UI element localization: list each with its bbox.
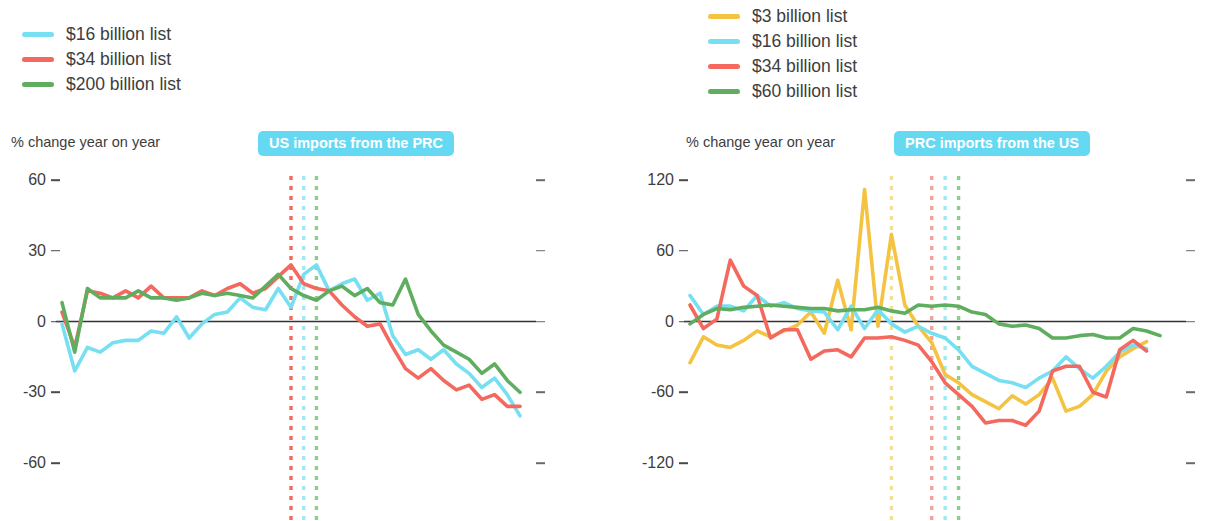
y-axis-tick-label: 60 (0, 171, 46, 189)
chart-board: $16 billion list $34 billion list $200 b… (0, 0, 1223, 521)
y-axis-tick-mark-right (1186, 250, 1195, 252)
y-axis-tick-label: 120 (524, 171, 674, 189)
y-axis-tick-label: 60 (524, 242, 674, 260)
y-axis-tick-label: 0 (524, 313, 674, 331)
y-axis-tick-label: 0 (0, 313, 46, 331)
y-axis-tick-mark (679, 462, 688, 464)
chart-svg (600, 0, 1223, 521)
y-axis-tick-mark (679, 391, 688, 393)
y-axis-tick-mark-right (1186, 462, 1195, 464)
y-axis-tick-mark-right (1186, 179, 1195, 181)
panel-us-imports: $16 billion list $34 billion list $200 b… (0, 0, 600, 521)
y-axis-tick-mark-right (1186, 321, 1195, 323)
chart-svg (0, 0, 600, 521)
y-axis-tick-label: 30 (0, 242, 46, 260)
y-axis-tick-mark (51, 462, 60, 464)
y-axis-tick-mark (679, 321, 688, 323)
y-axis-tick-mark (679, 179, 688, 181)
y-axis-tick-label: -60 (0, 454, 46, 472)
y-axis-tick-label: -120 (524, 454, 674, 472)
series-line (690, 260, 1147, 425)
y-axis-tick-mark-right (1186, 391, 1195, 393)
plot-area-us-imports: 60300-30-60Jan2017JulJan2018JulJan2019Ju… (0, 0, 600, 521)
y-axis-tick-mark (51, 179, 60, 181)
y-axis-tick-mark (51, 391, 60, 393)
y-axis-tick-label: -60 (524, 383, 674, 401)
series-line (690, 296, 1147, 388)
panel-prc-imports: $3 billion list $16 billion list $34 bil… (600, 0, 1223, 521)
y-axis-tick-mark (51, 250, 60, 252)
plot-area-prc-imports: 120600-60-120Jan2017JulJan2018JulJan2019… (600, 0, 1223, 521)
y-axis-tick-mark (679, 250, 688, 252)
y-axis-tick-label: -30 (0, 383, 46, 401)
y-axis-tick-mark (51, 321, 60, 323)
